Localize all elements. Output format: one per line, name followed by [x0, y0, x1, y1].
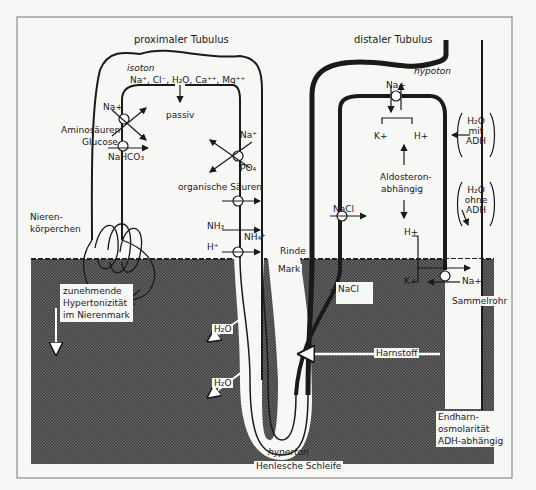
- label-nh3: NH₃: [207, 221, 224, 231]
- label-nh4: NH₄⁺: [244, 232, 266, 242]
- label-po4: PO₄: [240, 163, 256, 173]
- label-na-top: Na+: [386, 80, 406, 90]
- label-harnstoff: Harnstoff: [374, 348, 419, 358]
- endharn-line1: Endharn-: [438, 411, 503, 423]
- label-na-left: Na+: [103, 102, 123, 112]
- label-henlesche-schleife: Henlesche Schleife: [254, 461, 343, 471]
- h2o-mit-line1: H₂O: [460, 116, 492, 126]
- endharn-line3: ADH-abhängig: [438, 435, 503, 447]
- h2o-ohne-line3: ADH: [460, 205, 492, 215]
- h2o-ohne-line1: H₂O: [460, 185, 492, 195]
- label-proximal-tubule: proximaler Tubulus: [134, 34, 229, 45]
- label-aminosaeuren: Aminosäuren: [61, 125, 120, 135]
- label-aldosteron-2: abhängig: [381, 184, 423, 194]
- gradient-line3: im Nierenmark: [63, 309, 130, 321]
- label-hypoton: hypoton: [414, 66, 451, 77]
- label-isoton: isoton: [127, 63, 154, 74]
- label-nierenkoerperchen-1: Nieren-: [30, 212, 63, 222]
- label-h2o-medulla-1: H₂O: [212, 324, 233, 334]
- h2o-mit-line3: ADH: [460, 136, 492, 146]
- label-nacl-medulla: NaCl: [336, 282, 373, 304]
- label-na-right: Na⁺: [240, 130, 257, 140]
- label-h-bottom: H+: [404, 227, 418, 237]
- label-h-top: H+: [414, 131, 428, 141]
- h2o-ohne-line2: ohne: [460, 195, 492, 205]
- label-organische-saeuren: organische Säuren: [178, 182, 262, 192]
- label-gradient: zunehmende Hypertonizität im Nierenmark: [60, 284, 133, 322]
- label-aldosteron-1: Aldosteron-: [380, 172, 432, 182]
- label-nacl-cortex: NaCl: [333, 204, 354, 214]
- label-endharn: Endharn- osmolarität ADH-abhängig: [436, 411, 505, 447]
- label-mark: Mark: [276, 264, 302, 274]
- label-nahco3: NaHCO₃: [108, 152, 144, 162]
- label-passive-ions: Na⁺, Cl⁻, H₂O, Ca⁺⁺, Mg⁺⁺: [130, 75, 245, 85]
- label-sammelrohr: Sammelrohr: [450, 296, 509, 306]
- label-k-bottom: K+: [404, 276, 417, 286]
- label-k-top: K+: [374, 131, 387, 141]
- label-passiv: passiv: [166, 110, 194, 120]
- label-hyperton: hyperton: [268, 447, 309, 458]
- label-nierenkoerperchen-2: körperchen: [30, 224, 81, 234]
- label-h2o-mit-adh: H₂O mit ADH: [460, 116, 492, 146]
- gradient-line2: Hypertonizität: [63, 297, 130, 309]
- h2o-mit-line2: mit: [460, 126, 492, 136]
- label-h2o-medulla-2: H₂O: [212, 378, 233, 388]
- label-glucose: Glucose: [82, 137, 118, 147]
- gradient-line1: zunehmende: [63, 285, 130, 297]
- label-h2o-ohne-adh: H₂O ohne ADH: [460, 185, 492, 215]
- label-rinde: Rinde: [280, 246, 306, 256]
- label-na-bottom: Na+: [462, 276, 482, 286]
- label-distal-tubule: distaler Tubulus: [354, 34, 433, 45]
- label-h-plus: H⁺: [207, 242, 219, 252]
- endharn-line2: osmolarität: [438, 423, 503, 435]
